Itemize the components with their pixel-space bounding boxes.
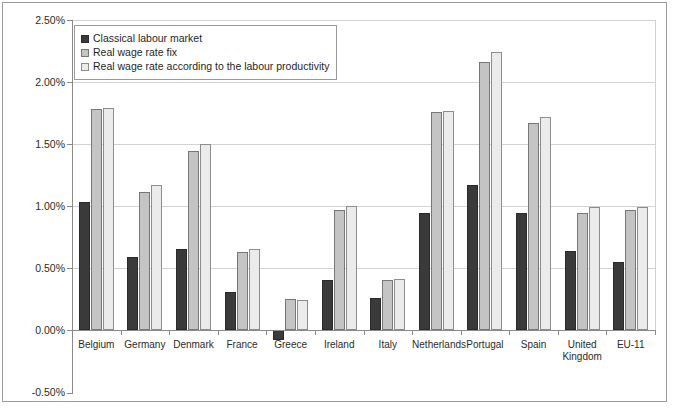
legend-item: Classical labour market [81,32,329,45]
bar [103,108,114,330]
y-gridline [73,20,656,21]
bar [443,111,454,330]
bar [237,252,248,330]
legend-label: Real wage rate according to the labour p… [93,60,329,73]
y-axis-label: 0.50% [5,263,65,273]
x-axis-label: France [218,339,267,351]
y-axis-tick [67,206,73,207]
bar [370,298,381,330]
bar [565,251,576,330]
bar [577,213,588,330]
legend-swatch-real-wage-rate-productivity [81,63,89,71]
bar [637,207,648,330]
bar [79,202,90,330]
bar [188,151,199,330]
y-axis-tick [67,144,73,145]
legend-item: Real wage rate fix [81,46,329,59]
x-axis-label: Germany [121,339,170,351]
bar [394,279,405,330]
y-axis-label: 0.00% [5,325,65,335]
x-axis-label: Portugal [461,339,510,351]
x-axis-label: United Kingdom [558,339,607,363]
bar [334,210,345,330]
x-axis-label: Denmark [169,339,218,351]
bar [491,52,502,330]
bar [431,112,442,330]
bar [322,280,333,330]
y-axis-tick [67,82,73,83]
bar [479,62,490,330]
bar [285,299,296,330]
legend-swatch-classical-labour-market [81,35,89,43]
bar [613,262,624,330]
bar [225,292,236,330]
bar [625,210,636,330]
y-gridline [73,144,656,145]
y-axis-label: 1.00% [5,201,65,211]
bar [249,249,260,330]
x-axis-label: Greece [266,339,315,351]
y-axis-bottom-tick [67,393,73,394]
legend-item: Real wage rate according to the labour p… [81,60,329,73]
bar [151,185,162,330]
y-axis-label: -0.50% [5,387,65,397]
zero-axis-line [72,330,655,331]
bar [516,213,527,330]
legend-swatch-real-wage-rate-fix [81,49,89,57]
bar [467,185,478,330]
x-axis-label: Italy [364,339,413,351]
bar [419,213,430,330]
bar [176,249,187,330]
bar [540,117,551,330]
bar [589,207,600,330]
x-axis-label: Ireland [315,339,364,351]
y-axis-tick [67,268,73,269]
x-axis-label: EU-11 [606,339,655,351]
bar [127,257,138,330]
legend-label: Classical labour market [93,32,202,45]
y-axis-label: 2.50% [5,15,65,25]
x-axis-label: Netherlands [412,339,461,351]
x-axis-label: Spain [509,339,558,351]
y-axis-tick [67,20,73,21]
bar [528,123,539,330]
x-axis-tick [655,330,656,335]
legend-label: Real wage rate fix [93,46,177,59]
bar [346,206,357,330]
bar [297,300,308,330]
bar [200,144,211,330]
y-axis-label: 2.00% [5,77,65,87]
chart-legend: Classical labour market Real wage rate f… [74,25,337,80]
plot-right-border [655,20,656,330]
y-axis-label: 1.50% [5,139,65,149]
y-gridline [73,82,656,83]
bar [382,280,393,330]
x-axis-label: Belgium [72,339,121,351]
bar [139,192,150,330]
bar-chart-figure: Classical labour market Real wage rate f… [0,0,673,408]
bar [91,109,102,330]
